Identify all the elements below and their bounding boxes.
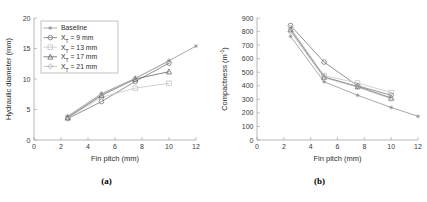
x-tick-label: 2 <box>59 143 63 150</box>
y-tick-label: 0 <box>250 137 254 144</box>
series-line <box>291 30 392 98</box>
y-tick-label: 200 <box>242 109 254 116</box>
y-tick-label: 100 <box>242 123 254 130</box>
y-tick-label: 0 <box>27 137 31 144</box>
series-line <box>291 25 392 95</box>
star-marker <box>356 93 360 97</box>
chart-panel-b: 0246810120100200300400500600700800900Fin… <box>213 0 426 202</box>
y-tick-label: 900 <box>242 15 254 22</box>
figure-container: 02468101205101520Fin pitch (mm)Hydraulic… <box>0 0 427 202</box>
star-marker <box>194 44 198 48</box>
y-tick-label: 10 <box>23 76 31 83</box>
x-tick-label: 4 <box>86 143 90 150</box>
legend-label: Baseline <box>61 24 87 31</box>
triangle-marker <box>167 69 172 74</box>
x-tick-label: 12 <box>414 143 422 150</box>
data-series <box>288 23 393 97</box>
y-tick-label: 5 <box>27 106 31 113</box>
series-line <box>291 36 418 116</box>
x-tick-label: 6 <box>113 143 117 150</box>
y-tick-label: 400 <box>242 82 254 89</box>
star-marker <box>389 105 393 109</box>
star-marker <box>416 114 420 118</box>
series-line <box>291 28 392 93</box>
data-series <box>289 34 420 118</box>
subfigure-label-b: (b) <box>213 176 426 186</box>
plot-a-svg: 02468101205101520Fin pitch (mm)Hydraulic… <box>0 0 213 202</box>
x-tick-label: 10 <box>165 143 173 150</box>
x-tick-label: 6 <box>336 143 340 150</box>
legend: BaselineXT = 9 mmXT = 13 mmXT = 17 mmXT … <box>41 21 118 73</box>
series-line <box>68 83 169 118</box>
x-axis-title: Fin pitch (mm) <box>314 154 362 163</box>
plot-b-svg: 0246810120100200300400500600700800900Fin… <box>213 0 426 202</box>
x-tick-label: 12 <box>192 143 200 150</box>
y-tick-label: 600 <box>242 55 254 62</box>
x-tick-label: 2 <box>282 143 286 150</box>
y-axis-title: Compactness (m-1) <box>219 47 229 111</box>
y-tick-label: 500 <box>242 69 254 76</box>
y-tick-label: 20 <box>23 15 31 22</box>
chart-panel-a: 02468101205101520Fin pitch (mm)Hydraulic… <box>0 0 213 202</box>
y-tick-label: 300 <box>242 96 254 103</box>
x-tick-label: 8 <box>362 143 366 150</box>
x-axis-title: Fin pitch (mm) <box>91 154 139 163</box>
y-tick-label: 800 <box>242 28 254 35</box>
x-tick-label: 0 <box>32 143 36 150</box>
subfigure-label-a: (a) <box>0 176 213 186</box>
y-tick-label: 15 <box>23 45 31 52</box>
x-tick-label: 4 <box>309 143 313 150</box>
y-axis-title: Hydraulic diameter (mm) <box>4 37 13 120</box>
data-series <box>288 27 394 100</box>
y-tick-label: 700 <box>242 42 254 49</box>
x-tick-label: 10 <box>387 143 395 150</box>
x-tick-label: 0 <box>255 143 259 150</box>
data-series <box>288 25 393 94</box>
x-tick-label: 8 <box>140 143 144 150</box>
